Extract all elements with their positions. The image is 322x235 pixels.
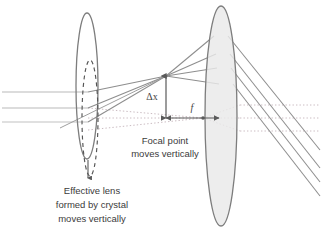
exiting-ray-2: [230, 54, 320, 168]
incoming-ray-bundle: [2, 92, 88, 122]
effective-lens-crystal: [76, 13, 98, 159]
converging-ray-1: [88, 76, 166, 92]
optics-ray-diagram-canvas: Δx f Focal point moves vertically Effect…: [0, 0, 322, 235]
delta-x-label: Δx: [146, 91, 157, 102]
effective-lens-note-line1: Effective lens: [64, 185, 121, 196]
exiting-ray-bundle: [228, 36, 320, 196]
exiting-ray-4: [233, 84, 320, 196]
optics-diagram: Δx f Focal point moves vertically Effect…: [0, 0, 322, 235]
focal-point-note-line1: Focal point: [142, 135, 189, 146]
effective-lens-note-line2: formed by crystal: [56, 199, 128, 210]
effective-lens-note-line3: moves vertically: [58, 213, 126, 224]
dotted-ray-1: [88, 108, 203, 118]
focal-point-note-line2: moves vertically: [131, 148, 199, 159]
focal-length-label: f: [191, 102, 195, 113]
objective-lens: [205, 6, 237, 226]
exiting-ray-1: [228, 36, 320, 150]
exiting-ray-3: [231, 68, 320, 182]
dotted-ray-3: [88, 118, 203, 130]
